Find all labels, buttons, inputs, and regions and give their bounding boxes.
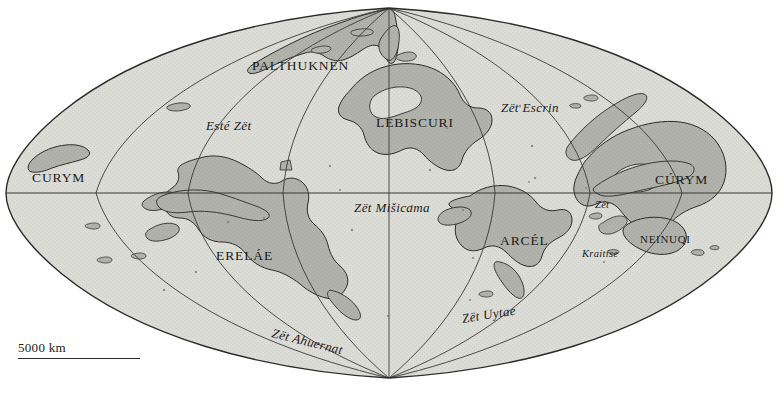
island-ahuernat-b <box>97 257 112 263</box>
scale-bar-line <box>18 358 140 359</box>
island-kraitise-c <box>608 250 619 254</box>
scale-bar-label: 5000 km <box>18 340 140 358</box>
island-zet-escrin-a <box>584 95 598 101</box>
island-neinuqi-b <box>710 246 719 250</box>
graticule <box>6 8 772 378</box>
island-ahuernat-c <box>85 223 100 229</box>
world-map-figure: PALTHUKNEN LEBISCURI CURYM CÚRYM ERELÁE … <box>0 0 778 405</box>
scale-bar: 5000 km <box>18 340 140 359</box>
island-zet-escrin-b <box>570 104 581 108</box>
